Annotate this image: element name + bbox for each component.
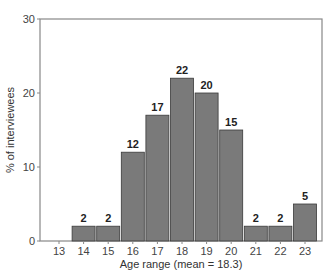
y-tick-label: 30 [23,13,35,25]
bar-21 [244,226,267,241]
bar-14 [72,226,95,241]
bars: 221217222015225 [72,64,316,241]
x-tick-label: 15 [102,245,114,257]
bar-value-label: 17 [151,101,163,113]
x-tick-label: 19 [200,245,212,257]
bar-18 [171,78,194,241]
bar-22 [269,226,292,241]
y-tick-label: 10 [23,161,35,173]
x-tick-label: 13 [53,245,65,257]
y-axis: 0102030 [23,13,40,247]
x-axis: 1314151617181920212223 [53,241,311,257]
x-tick-label: 21 [250,245,262,257]
bar-value-label: 22 [176,64,188,76]
x-tick-label: 16 [127,245,139,257]
x-tick-label: 18 [176,245,188,257]
bar-value-label: 2 [277,212,283,224]
bar-15 [97,226,120,241]
x-axis-title: Age range (mean = 18.3) [120,258,243,270]
x-tick-label: 14 [77,245,89,257]
bar-value-label: 12 [127,138,139,150]
bar-value-label: 5 [302,190,308,202]
x-tick-label: 17 [151,245,163,257]
bar-value-label: 2 [105,212,111,224]
bar-19 [195,93,218,241]
x-tick-label: 23 [299,245,311,257]
y-tick-label: 0 [29,235,35,247]
bar-23 [294,204,317,241]
bar-20 [220,130,243,241]
x-tick-label: 22 [274,245,286,257]
bar-value-label: 2 [81,212,87,224]
bar-16 [121,152,144,241]
bar-value-label: 15 [225,116,237,128]
bar-17 [146,115,169,241]
y-axis-title: % of interviewees [4,86,16,173]
y-tick-label: 20 [23,87,35,99]
bar-chart: 0102030 221217222015225 1314151617181920… [0,0,331,273]
bar-value-label: 2 [253,212,259,224]
x-tick-label: 20 [225,245,237,257]
bar-value-label: 20 [200,79,212,91]
